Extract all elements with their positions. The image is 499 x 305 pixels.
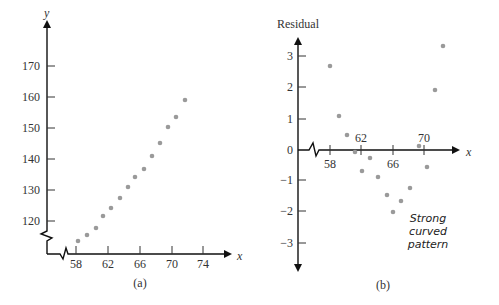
- residual-point: [399, 199, 404, 204]
- x-axis-arrow-a: [224, 250, 232, 258]
- y-axis-label-b: Residual: [277, 17, 320, 31]
- x-tick-label: 70: [166, 257, 178, 271]
- y-tick-label: −1: [280, 173, 293, 187]
- x-tick-label: 66: [134, 257, 146, 271]
- svg-text:Strong: Strong: [410, 212, 447, 225]
- x-axis-b: [298, 143, 454, 156]
- residual-point: [425, 165, 430, 170]
- y-tick-label: 160: [22, 90, 40, 104]
- residual-point: [433, 88, 438, 93]
- data-point: [133, 175, 138, 180]
- x-tick-label: 62: [102, 257, 114, 271]
- data-point: [85, 233, 90, 238]
- data-point: [101, 214, 106, 219]
- residual-point: [408, 186, 413, 191]
- residual-point: [353, 150, 358, 155]
- data-point: [142, 167, 147, 172]
- y-tick-label: 2: [287, 80, 293, 94]
- y-tick-label: 3: [287, 49, 293, 63]
- data-point: [174, 115, 179, 120]
- data-point: [158, 141, 163, 146]
- x-ticks-a: [76, 246, 203, 254]
- residual-point: [345, 133, 350, 138]
- caption-b: (b): [376, 278, 390, 292]
- x-tick-label: 74: [197, 257, 209, 271]
- data-point: [76, 239, 81, 244]
- data-points-a: [76, 98, 188, 244]
- y-tick-label: 170: [22, 59, 40, 73]
- y-tick-label: 0: [287, 143, 293, 157]
- data-point: [109, 206, 114, 211]
- data-point: [166, 125, 171, 130]
- x-tick-label: 70: [418, 131, 430, 145]
- residual-point: [368, 156, 373, 161]
- x-tick-label: 58: [70, 257, 82, 271]
- annotation-strong-curved-pattern: Strong curved pattern: [407, 212, 449, 251]
- svg-text:curved: curved: [409, 225, 448, 238]
- data-point: [118, 196, 123, 201]
- x-axis-label-b: x: [465, 145, 472, 159]
- data-points-b: [328, 44, 446, 215]
- residual-plot-b: 3 2 1 0 −1 −2 −3 58 62 66 70 Residual x …: [277, 17, 472, 292]
- data-point: [183, 98, 188, 103]
- y-tick-label: −2: [280, 204, 293, 218]
- y-axis-arrow-a: [43, 20, 51, 28]
- y-tick-label: 150: [22, 121, 40, 135]
- residual-point: [337, 114, 342, 119]
- residual-point: [385, 193, 390, 198]
- y-tick-label: 1: [287, 112, 293, 126]
- y-tick-label: 140: [22, 152, 40, 166]
- y-axis-label-a: y: [43, 6, 50, 20]
- residual-point: [328, 64, 333, 69]
- residual-point: [391, 210, 396, 215]
- y-axis-arrow-up-b: [294, 37, 302, 45]
- residual-point: [441, 44, 446, 49]
- residual-point: [417, 144, 422, 149]
- y-tick-label: 120: [22, 214, 40, 228]
- figure: 170 160 150 140 130 120 58 62 66 70 74 y…: [0, 0, 499, 305]
- x-tick-label: 66: [387, 157, 399, 171]
- residual-point: [376, 175, 381, 180]
- data-point: [126, 185, 131, 190]
- data-point: [94, 226, 99, 231]
- x-tick-label: 62: [355, 131, 367, 145]
- residual-point: [360, 169, 365, 174]
- x-tick-label: 58: [324, 157, 336, 171]
- y-ticks-a: [47, 66, 55, 221]
- svg-text:pattern: pattern: [407, 238, 449, 251]
- data-point: [150, 154, 155, 159]
- y-tick-label: −3: [280, 236, 293, 250]
- y-axis-arrow-down-b: [294, 264, 302, 272]
- x-axis-label-a: x: [236, 249, 243, 263]
- y-tick-label: 130: [22, 183, 40, 197]
- caption-a: (a): [133, 276, 146, 290]
- scatter-plot-a: 170 160 150 140 130 120 58 62 66 70 74 y…: [22, 6, 243, 290]
- x-axis-arrow-b: [452, 146, 460, 154]
- y-axis-a: [41, 24, 52, 254]
